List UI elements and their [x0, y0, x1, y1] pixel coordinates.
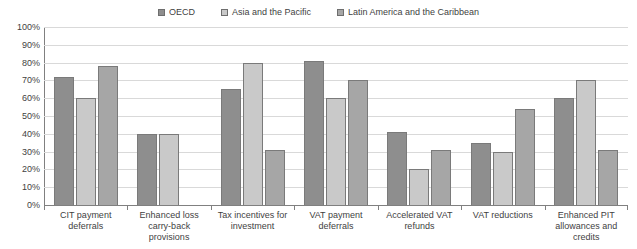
bar-groups — [44, 27, 628, 205]
y-axis-tick-label: 70% — [0, 76, 40, 85]
bar-chart: OECD Asia and the Pacific Latin America … — [0, 0, 637, 249]
legend-swatch-oecd — [158, 9, 165, 16]
legend-item-oecd: OECD — [158, 7, 195, 17]
y-axis-tick-label: 30% — [0, 148, 40, 157]
y-axis-tick-label: 80% — [0, 59, 40, 68]
bar-group — [211, 27, 294, 205]
y-axis-tick-label: 20% — [0, 165, 40, 174]
bar — [243, 63, 263, 205]
bar-group — [461, 27, 544, 205]
x-axis-category-label: Tax incentives for investment — [211, 210, 294, 243]
x-axis-category-label: VAT reductions — [461, 210, 544, 243]
plot-area — [44, 27, 628, 205]
bar — [54, 77, 74, 205]
bar — [576, 80, 596, 205]
legend-label-oecd: OECD — [169, 7, 195, 17]
legend-label-asia-pacific: Asia and the Pacific — [232, 7, 311, 17]
y-axis-tick-label: 60% — [0, 94, 40, 103]
bar — [471, 143, 491, 205]
y-axis-tick-label: 10% — [0, 183, 40, 192]
legend-label-latin-america: Latin America and the Caribbean — [348, 7, 479, 17]
bar-group — [545, 27, 628, 205]
bar — [409, 169, 429, 205]
legend-item-asia-pacific: Asia and the Pacific — [221, 7, 311, 17]
x-axis-category-label: Enhanced PIT allowances and credits — [545, 210, 628, 243]
bar — [387, 132, 407, 205]
bar — [265, 150, 285, 205]
bar — [431, 150, 451, 205]
x-axis-category-label: Enhanced loss carry-back provisions — [127, 210, 210, 243]
legend-swatch-latin-america — [337, 9, 344, 16]
y-axis: 100%90%80%70%60%50%40%30%20%10%0% — [0, 27, 40, 205]
chart-legend: OECD Asia and the Pacific Latin America … — [0, 7, 637, 17]
bar — [348, 80, 368, 205]
y-axis-tick-label: 50% — [0, 112, 40, 121]
bar — [137, 134, 157, 205]
bar — [221, 89, 241, 205]
x-axis-labels: CIT payment deferralsEnhanced loss carry… — [44, 210, 628, 243]
x-axis-category-label: CIT payment deferrals — [44, 210, 127, 243]
bar — [493, 152, 513, 205]
bar — [326, 98, 346, 205]
y-axis-tick-label: 0% — [0, 201, 40, 210]
bar — [554, 98, 574, 205]
bar — [598, 150, 618, 205]
bar — [304, 61, 324, 205]
bar — [98, 66, 118, 205]
bar — [159, 134, 179, 205]
bar-group — [378, 27, 461, 205]
y-axis-tick-label: 90% — [0, 41, 40, 50]
legend-swatch-asia-pacific — [221, 9, 228, 16]
x-axis-category-label: Accelerated VAT refunds — [378, 210, 461, 243]
bar — [515, 109, 535, 205]
bar-group — [127, 27, 210, 205]
bar-group — [294, 27, 377, 205]
y-axis-tick-label: 40% — [0, 130, 40, 139]
legend-item-latin-america: Latin America and the Caribbean — [337, 7, 479, 17]
bar-group — [44, 27, 127, 205]
bar — [76, 98, 96, 205]
y-axis-tick-label: 100% — [0, 23, 40, 32]
x-axis-category-label: VAT payment deferrals — [294, 210, 377, 243]
